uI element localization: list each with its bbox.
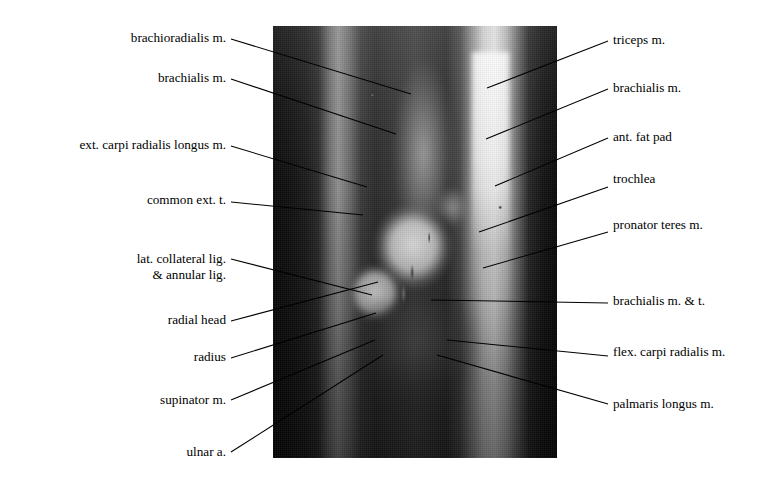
label-brachialis-m: brachialis m. (158, 70, 226, 86)
leader-lines-group (0, 0, 780, 496)
annotated-mri-figure: brachioradialis m.brachialis m.ext. carp… (0, 0, 780, 496)
leader-line-triceps-m (487, 41, 608, 88)
label-text: brachioradialis m. (131, 30, 226, 45)
label-triceps-m: triceps m. (613, 32, 665, 48)
leader-line-radial-head (231, 282, 378, 321)
leader-line-common-ext-t (231, 202, 363, 215)
label-pronator-teres-m: pronator teres m. (613, 217, 703, 233)
label-supinator-m: supinator m. (160, 392, 226, 408)
label-text-line2: & annular lig. (137, 267, 226, 283)
label-text: trochlea (613, 171, 655, 186)
label-common-ext-t: common ext. t. (147, 192, 226, 208)
leader-line-palmaris-longus-m (437, 355, 608, 404)
label-ext-carpi-radialis-longus-m: ext. carpi radialis longus m. (80, 137, 227, 153)
label-flex-carpi-radialis-m: flex. carpi radialis m. (613, 344, 725, 360)
leader-line-radius (231, 313, 376, 358)
label-text: radius (194, 349, 226, 364)
label-text: triceps m. (613, 32, 665, 47)
leader-line-brachialis-m (231, 79, 396, 134)
label-text: brachialis m. (613, 80, 681, 95)
label-text: palmaris longus m. (613, 396, 714, 411)
label-text: pronator teres m. (613, 217, 703, 232)
leader-line-brachialis-m-and-t (431, 300, 608, 303)
leader-line-brachioradialis-m (231, 39, 411, 94)
leader-line-pronator-teres-m (483, 232, 608, 268)
label-palmaris-longus-m: palmaris longus m. (613, 396, 714, 412)
label-radius: radius (194, 349, 226, 365)
label-brachialis-m: brachialis m. (613, 80, 681, 96)
label-text: lat. collateral lig. (137, 251, 226, 266)
label-text: radial head (168, 312, 226, 327)
leader-line-ulnar-a (231, 355, 383, 452)
leader-line-flex-carpi-radialis-m (447, 340, 608, 356)
label-lat-collateral-lig: lat. collateral lig.& annular lig. (137, 251, 226, 282)
label-text: common ext. t. (147, 192, 226, 207)
label-trochlea: trochlea (613, 171, 655, 187)
label-text: ant. fat pad (613, 129, 672, 144)
label-text: supinator m. (160, 392, 226, 407)
label-text: ulnar a. (186, 444, 226, 459)
label-text: brachialis m. (158, 70, 226, 85)
leader-line-supinator-m (231, 340, 375, 400)
label-brachioradialis-m: brachioradialis m. (131, 30, 226, 46)
label-ant-fat-pad: ant. fat pad (613, 129, 672, 145)
label-text: brachialis m. & t. (613, 293, 705, 308)
leader-line-ext-carpi-radialis-longus-m (231, 146, 367, 187)
label-text: ext. carpi radialis longus m. (80, 137, 227, 152)
leader-line-brachialis-m (486, 89, 608, 139)
label-text: flex. carpi radialis m. (613, 344, 725, 359)
leader-line-ant-fat-pad (495, 138, 608, 186)
label-brachialis-m-and-t: brachialis m. & t. (613, 293, 705, 309)
leader-line-trochlea (479, 187, 608, 232)
label-radial-head: radial head (168, 312, 226, 328)
label-ulnar-a: ulnar a. (186, 444, 226, 460)
